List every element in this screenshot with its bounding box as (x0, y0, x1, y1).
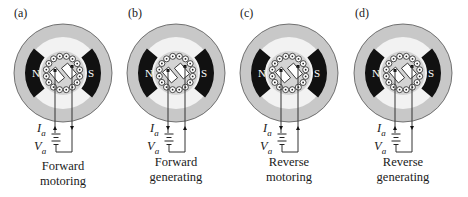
conductor-dot (53, 58, 55, 60)
conductor-dot (185, 58, 187, 60)
conductor-dot (305, 69, 307, 71)
conductor-dot (274, 63, 276, 65)
conductor-dot (416, 82, 418, 84)
current-arrow-up-icon (393, 126, 397, 130)
current-arrow-up-icon (183, 126, 187, 130)
armature-current-label: Ia (263, 121, 272, 138)
conductor-dot (271, 75, 273, 77)
conductor-dot (45, 69, 47, 71)
south-pole-label: S (201, 67, 207, 79)
conductor-dot (53, 86, 55, 88)
current-arrow-down-icon (70, 126, 74, 130)
armature-current-label: Ia (150, 121, 159, 138)
machine-forward-motoring: NS (14, 24, 112, 152)
south-pole-label: S (88, 67, 94, 79)
conductor-dot (271, 69, 273, 71)
conductor-dot (79, 75, 81, 77)
conductor-dot (279, 58, 281, 60)
armature-voltage-label: Va (147, 139, 159, 156)
caption-line-2: motoring (18, 174, 108, 189)
conductor-dot (399, 55, 401, 57)
conductor-dot (405, 55, 407, 57)
conductor-dot (305, 75, 307, 77)
conductor-dot (166, 86, 168, 88)
conductor-dot (65, 89, 67, 91)
conductor-dot (166, 58, 168, 60)
conductor-dot (388, 63, 390, 65)
rotor (41, 51, 85, 95)
conductor-dot (59, 89, 61, 91)
conductor-dot (158, 75, 160, 77)
conductor-dot (172, 89, 174, 91)
machine-forward-generating: NS (127, 24, 225, 152)
conductor-dot (192, 69, 194, 71)
conductor-dot (45, 75, 47, 77)
conductor-dot (388, 81, 390, 83)
armature-voltage-label: Va (34, 139, 46, 156)
machine-reverse-motoring: NS (240, 24, 338, 152)
conductor-dot (291, 55, 293, 57)
caption-line-1: Forward (18, 159, 108, 174)
conductor-dot (161, 63, 163, 65)
conductor-dot (302, 82, 304, 84)
armature-voltage-label: Va (374, 139, 386, 156)
conductor-dot (285, 55, 287, 57)
conductor-dot (158, 69, 160, 71)
caption-line-2: motoring (244, 170, 334, 185)
rotor (381, 51, 425, 95)
conductor-dot (385, 69, 387, 71)
conductor-dot (48, 63, 50, 65)
conductor-dot (393, 58, 395, 60)
conductor-dot (416, 63, 418, 65)
caption-line-2: generating (131, 170, 221, 185)
conductor-dot (65, 55, 67, 57)
conductor-dot (79, 69, 81, 71)
caption-line-2: generating (358, 170, 448, 185)
conductor-dot (399, 89, 401, 91)
conductor-dot (178, 89, 180, 91)
rotor (154, 51, 198, 95)
current-arrow-down-icon (166, 126, 170, 130)
machine-reverse-generating: NS (354, 24, 452, 152)
conductor-dot (192, 75, 194, 77)
mode-caption: Forwardmotoring (18, 159, 108, 189)
conductor-dot (291, 89, 293, 91)
armature-current-label: Ia (377, 121, 386, 138)
mode-caption: Forwardgenerating (131, 155, 221, 185)
north-pole-label: N (145, 67, 153, 79)
conductor-dot (393, 86, 395, 88)
current-arrow-down-icon (279, 126, 283, 130)
conductor-dot (385, 75, 387, 77)
conductor-dot (274, 81, 276, 83)
conductor-dot (172, 55, 174, 57)
conductor-dot (279, 86, 281, 88)
current-arrow-up-icon (53, 126, 57, 130)
conductor-dot (161, 81, 163, 83)
conductor-dot (59, 55, 61, 57)
conductor-dot (48, 81, 50, 83)
conductor-dot (419, 75, 421, 77)
conductor-dot (412, 58, 414, 60)
conductor-dot (76, 82, 78, 84)
conductor-dot (405, 89, 407, 91)
caption-line-1: Reverse (358, 155, 448, 170)
conductor-dot (419, 69, 421, 71)
caption-line-1: Forward (131, 155, 221, 170)
north-pole-label: N (32, 67, 40, 79)
conductor-dot (189, 82, 191, 84)
current-arrow-up-icon (296, 126, 300, 130)
south-pole-label: S (314, 67, 320, 79)
south-pole-label: S (428, 67, 434, 79)
conductor-dot (76, 63, 78, 65)
conductor-dot (189, 63, 191, 65)
current-arrow-down-icon (410, 126, 414, 130)
conductor-dot (285, 89, 287, 91)
conductor-dot (298, 58, 300, 60)
conductor-dot (178, 55, 180, 57)
north-pole-label: N (258, 67, 266, 79)
caption-line-1: Reverse (244, 155, 334, 170)
conductor-dot (72, 58, 74, 60)
mode-caption: Reversemotoring (244, 155, 334, 185)
rotor (267, 51, 311, 95)
armature-current-label: Ia (37, 121, 46, 138)
